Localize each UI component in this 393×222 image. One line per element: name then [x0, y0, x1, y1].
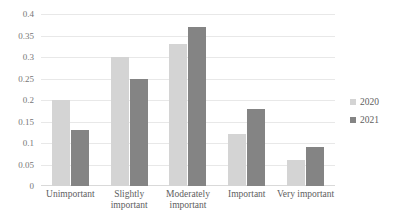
bar-groups — [41, 14, 335, 186]
legend-swatch-icon-2021 — [350, 117, 356, 123]
bar-2021[interactable] — [71, 130, 89, 186]
legend-item-2020[interactable]: 2020 — [350, 97, 379, 107]
legend-label-2021: 2021 — [360, 115, 379, 125]
bar-2021[interactable] — [306, 147, 324, 186]
bar-group — [277, 14, 335, 186]
y-axis-tick-label: 0.3 — [23, 53, 34, 62]
y-axis: 00.050.10.150.20.250.30.350.4 — [0, 0, 38, 222]
y-axis-tick-label: 0.15 — [18, 118, 34, 127]
x-axis-tick-label: Important — [217, 189, 276, 211]
bar-group — [100, 14, 158, 186]
y-axis-tick-label: 0.2 — [23, 96, 34, 105]
legend-swatch-icon-2020 — [350, 99, 356, 105]
y-axis-tick-label: 0.4 — [23, 10, 34, 19]
y-axis-tick-label: 0.05 — [18, 161, 34, 170]
bar-2021[interactable] — [188, 27, 206, 186]
x-axis-tick-label: Unimportant — [41, 189, 100, 211]
y-axis-tick-label: 0.25 — [18, 75, 34, 84]
bar-2020[interactable] — [287, 160, 305, 186]
bar-2020[interactable] — [228, 134, 246, 186]
y-axis-tick-label: 0.35 — [18, 32, 34, 41]
bar-2020[interactable] — [169, 44, 187, 186]
bar-group — [159, 14, 217, 186]
chart-legend: 2020 2021 — [350, 97, 379, 133]
bar-2020[interactable] — [111, 57, 129, 186]
bar-2021[interactable] — [247, 109, 265, 186]
x-axis-tick-label: Moderately important — [159, 189, 218, 211]
x-axis-tick-label: Slightly important — [100, 189, 159, 211]
y-axis-tick-label: 0 — [30, 182, 35, 191]
legend-label-2020: 2020 — [360, 97, 379, 107]
bar-2021[interactable] — [130, 79, 148, 187]
x-axis-labels: UnimportantSlightly importantModerately … — [41, 189, 335, 211]
y-axis-tick-label: 0.1 — [23, 139, 34, 148]
bar-2020[interactable] — [52, 100, 70, 186]
x-axis-tick-label: Very important — [276, 189, 335, 211]
bar-chart: 00.050.10.150.20.250.30.350.4 Unimportan… — [0, 0, 393, 222]
bar-group — [41, 14, 99, 186]
legend-item-2021[interactable]: 2021 — [350, 115, 379, 125]
bar-group — [218, 14, 276, 186]
